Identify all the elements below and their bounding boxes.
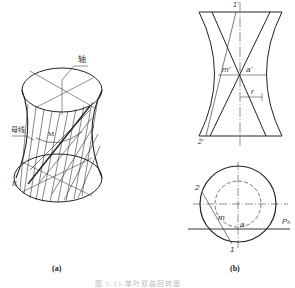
caption-a: (a) xyxy=(52,264,61,273)
label-axis: 轴 xyxy=(78,56,86,64)
label-1-prime: 1' xyxy=(233,1,238,8)
label-2: 2 xyxy=(195,184,199,192)
caption-b: (b) xyxy=(230,264,240,273)
hyperboloid-front-view xyxy=(199,2,282,146)
label-point-m: M xyxy=(48,131,54,138)
hyperboloid-isometric xyxy=(12,66,102,202)
label-generatrix: 母线 xyxy=(11,127,25,134)
label-a: a xyxy=(240,221,244,229)
figure-caption: 图 5-21 单叶双曲回转面 xyxy=(95,278,181,288)
label-2-prime: 2' xyxy=(198,138,203,145)
label-line-ii: II xyxy=(12,180,16,188)
ruling-lines xyxy=(20,98,100,202)
label-m: m xyxy=(218,214,225,222)
label-1: 1 xyxy=(230,246,234,254)
label-radius: r xyxy=(251,88,254,96)
label-ph: Pₕ xyxy=(282,218,290,226)
label-m-prime: m' xyxy=(222,66,230,74)
hyperboloid-top-view xyxy=(188,162,290,248)
label-a-prime: a' xyxy=(246,66,252,74)
